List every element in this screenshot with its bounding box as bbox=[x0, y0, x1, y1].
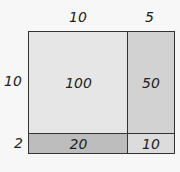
cell-top-right: 50 bbox=[127, 31, 175, 135]
side-label-top: 10 bbox=[4, 73, 22, 89]
cell-bottom-right: 10 bbox=[127, 133, 175, 154]
top-label-right: 5 bbox=[145, 9, 154, 25]
side-label-bottom: 2 bbox=[14, 135, 23, 151]
top-label-left: 10 bbox=[69, 9, 87, 25]
cell-bottom-left: 20 bbox=[28, 133, 129, 154]
cell-top-left: 100 bbox=[28, 31, 129, 135]
